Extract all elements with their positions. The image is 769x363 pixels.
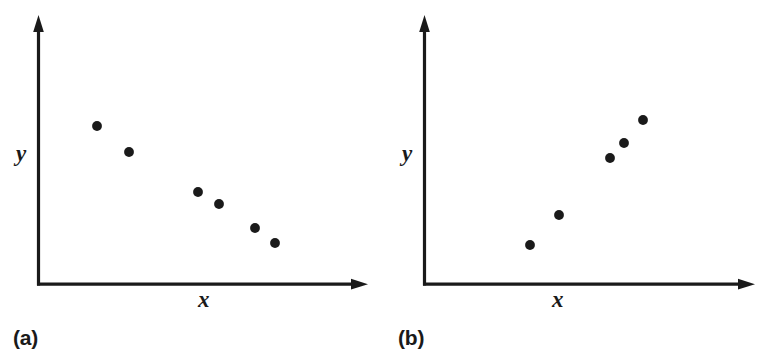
x-axis-arrowhead-icon	[351, 279, 368, 290]
data-point	[525, 240, 535, 250]
y-axis-arrowhead-icon	[33, 15, 44, 32]
data-points-group-b	[525, 115, 648, 250]
panel-a: y x (a)	[0, 0, 385, 363]
data-point	[638, 115, 648, 125]
data-point	[250, 223, 260, 233]
panel-caption-b: (b)	[398, 327, 424, 348]
data-point	[193, 187, 203, 197]
x-axis-label: x	[198, 288, 210, 311]
panel-b: y x (b)	[384, 0, 769, 363]
y-axis-arrowhead-icon	[419, 15, 430, 32]
data-points-group-a	[92, 121, 280, 248]
data-point	[270, 238, 280, 248]
panel-b-plot	[384, 0, 769, 363]
data-point	[124, 147, 134, 157]
panel-caption-a: (a)	[13, 327, 38, 348]
data-point	[92, 121, 102, 131]
data-point	[214, 199, 224, 209]
x-axis-label: x	[552, 288, 564, 311]
panel-a-plot	[0, 0, 385, 363]
data-point	[619, 138, 629, 148]
y-axis-label: y	[16, 142, 26, 165]
data-point	[605, 153, 615, 163]
scatterplot-figure: y x (a) y x (b)	[0, 0, 769, 363]
data-point	[554, 210, 564, 220]
y-axis-label: y	[402, 142, 412, 165]
x-axis-arrowhead-icon	[738, 279, 755, 290]
